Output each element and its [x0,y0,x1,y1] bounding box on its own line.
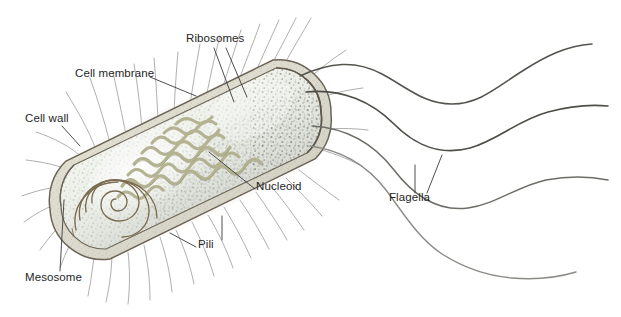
leader-pili-a [170,233,196,247]
diagram-canvas [0,0,621,317]
label-nucleoid: Nucleoid [256,181,302,193]
label-cell-membrane: Cell membrane [75,68,154,80]
flagellum-4 [310,146,576,279]
bacterial-cell-diagram: Ribosomes Cell membrane Cell wall Nucleo… [0,0,621,317]
bacterial-cell-body [0,0,621,317]
label-pili: Pili [198,239,214,251]
flagellum-2 [306,91,608,150]
flagella-group [300,44,608,279]
label-cell-wall: Cell wall [25,113,69,125]
leader-flagella-b [427,155,442,193]
label-mesosome: Mesosome [25,272,82,284]
label-ribosomes: Ribosomes [186,33,244,45]
flagellum-3 [312,126,608,209]
leader-cell-wall [62,126,80,146]
label-flagella: Flagella [389,192,430,204]
